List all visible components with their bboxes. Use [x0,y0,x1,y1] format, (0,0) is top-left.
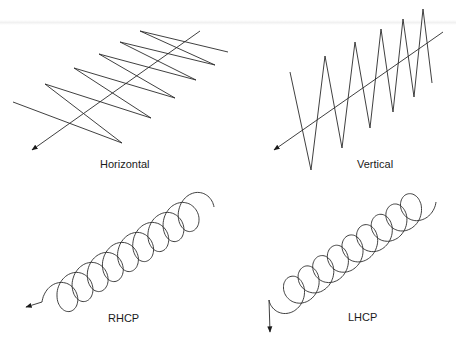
rhcp-helix [26,192,214,311]
propagation-arrow-icon [274,32,443,150]
label-horizontal: Horizontal [100,158,150,170]
panel-horizontal [13,31,228,150]
label-vertical: Vertical [357,158,393,170]
panel-rhcp [26,192,214,311]
propagation-arrow-icon [32,31,200,150]
panel-vertical [274,9,443,170]
label-rhcp: RHCP [108,312,139,324]
polarization-diagram [0,0,456,345]
label-lhcp: LHCP [348,311,377,323]
